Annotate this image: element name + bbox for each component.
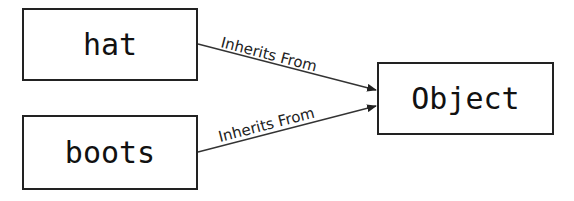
node-hat[interactable]: hat — [22, 8, 198, 81]
node-label: Object — [411, 81, 519, 116]
node-object[interactable]: Object — [377, 62, 554, 135]
edge-hat-to-object[interactable]: Inherits From — [198, 33, 376, 90]
edge-label: Inherits From — [219, 33, 319, 75]
node-label: boots — [65, 135, 155, 170]
node-label: hat — [83, 27, 137, 62]
edge-boots-to-object[interactable]: Inherits From — [198, 104, 376, 152]
node-boots[interactable]: boots — [22, 115, 198, 190]
edge-label: Inherits From — [216, 104, 316, 146]
